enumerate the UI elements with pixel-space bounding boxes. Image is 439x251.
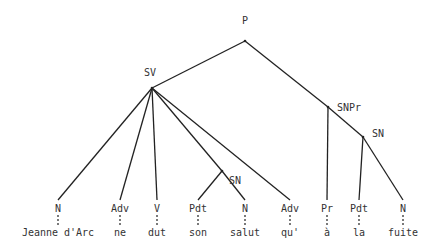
word-0: Jeanne d'Arc xyxy=(22,228,94,238)
node-label-V: V xyxy=(154,204,160,214)
node-label-P: P xyxy=(242,16,248,26)
word-4: salut xyxy=(230,228,260,238)
node-dot-SN0 xyxy=(221,170,224,173)
node-dot-SNPr xyxy=(327,106,330,109)
node-label-SNPr: SNPr xyxy=(337,103,361,113)
tree-edge-SV-Adv2 xyxy=(152,88,290,200)
node-label-Adv2: Adv xyxy=(281,204,299,214)
tree-edge-SV-SN0 xyxy=(152,88,222,171)
node-label-Adv1: Adv xyxy=(111,204,129,214)
tree-edge-SV-Adv1 xyxy=(120,88,152,200)
tree-edge-P-SV xyxy=(152,41,245,88)
node-label-N1: N xyxy=(55,204,61,214)
node-dot-SV xyxy=(151,87,154,90)
node-label-Pr: Pr xyxy=(321,204,333,214)
tree-edges xyxy=(0,0,439,251)
node-label-N3: N xyxy=(400,204,406,214)
word-3: son xyxy=(189,228,207,238)
tree-edge-SV-N1 xyxy=(58,88,152,200)
tree-edge-SNPr-Pr xyxy=(327,107,328,200)
word-2: dut xyxy=(148,228,166,238)
node-label-SN0: SN xyxy=(229,176,241,186)
node-dot-P xyxy=(244,40,247,43)
tree-edge-SV-V xyxy=(152,88,157,200)
node-label-Pdt2: Pdt xyxy=(350,204,368,214)
node-label-Pdt1: Pdt xyxy=(189,204,207,214)
node-label-SV: SV xyxy=(144,68,156,78)
tree-edge-SN0-Pdt1 xyxy=(198,171,222,200)
word-5: qu' xyxy=(281,228,299,238)
word-1: ne xyxy=(114,228,126,238)
tree-edge-SN1-Pdt2 xyxy=(359,137,363,200)
tree-edge-P-SNPr xyxy=(245,41,328,107)
word-7: la xyxy=(353,228,365,238)
node-label-SN1: SN xyxy=(372,129,384,139)
node-dot-SN1 xyxy=(362,136,365,139)
node-label-N2: N xyxy=(242,204,248,214)
word-6: à xyxy=(324,228,330,238)
word-8: fuite xyxy=(388,228,418,238)
tree-edge-SN1-N3 xyxy=(363,137,403,200)
